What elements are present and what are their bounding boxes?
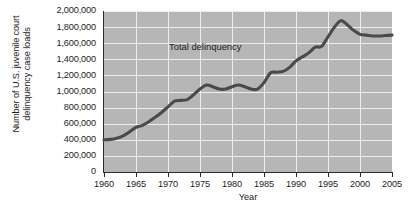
x-tick-mark (200, 173, 201, 177)
chart-figure: Number of U.S. juvenile court delinquenc… (0, 0, 417, 212)
x-tick-mark (136, 173, 137, 177)
x-tick-mark (168, 173, 169, 177)
x-axis-title: Year (104, 192, 392, 202)
x-axis-ticks: 1960196519701975198019851990199520002005 (0, 0, 417, 212)
x-tick-mark (328, 173, 329, 177)
x-tick-mark (296, 173, 297, 177)
x-tick-mark (392, 173, 393, 177)
x-tick-mark (360, 173, 361, 177)
x-tick-mark (104, 173, 105, 177)
x-tick-mark (264, 173, 265, 177)
x-tick-label: 2005 (372, 179, 412, 189)
x-tick-mark (232, 173, 233, 177)
